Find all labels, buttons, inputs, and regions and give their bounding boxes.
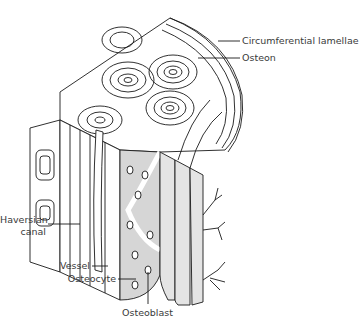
block-top-face	[60, 18, 241, 152]
label-vessel: Vessel	[40, 260, 90, 271]
nerve-branch-upper	[203, 188, 225, 240]
vessel	[94, 130, 103, 272]
label-osteoblast: Osteoblast	[122, 307, 173, 318]
block-left-face	[30, 120, 60, 272]
label-haversian-canal-line1: Haversian	[0, 214, 46, 225]
label-circumferential-lamellae: Circumferential lamellae	[242, 35, 359, 46]
label-osteocyte: Osteocyte	[56, 273, 116, 284]
label-osteon: Osteon	[242, 52, 276, 63]
label-haversian-canal-line2: canal	[0, 226, 46, 237]
block-side-face	[120, 150, 160, 300]
periosteum-layers	[160, 152, 175, 300]
nerve-branch-lower	[203, 262, 225, 290]
